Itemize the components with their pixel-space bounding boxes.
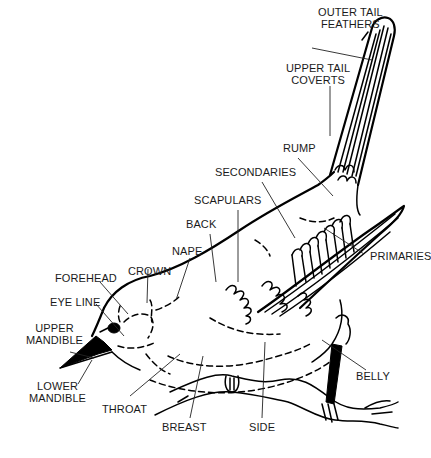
label-line-1: LOWER	[29, 380, 86, 392]
label-upper-tail-coverts: UPPER TAIL COVERTS	[286, 62, 350, 86]
tail	[330, 17, 395, 185]
label-breast: BREAST	[162, 421, 207, 433]
label-eye-line: EYE LINE	[50, 296, 100, 308]
label-secondaries: SECONDARIES	[215, 166, 296, 178]
leader-lines	[70, 48, 372, 418]
label-line-1: OUTER TAIL	[318, 6, 383, 18]
label-nape: NAPE	[172, 245, 202, 257]
label-throat: THROAT	[102, 403, 147, 415]
label-scapulars: SCAPULARS	[194, 194, 262, 206]
label-line-2: MANDIBLE	[26, 334, 83, 346]
label-upper-mandible: UPPER MANDIBLE	[26, 322, 83, 346]
label-side: SIDE	[249, 421, 275, 433]
label-belly: BELLY	[356, 370, 390, 382]
label-line-2: MANDIBLE	[29, 392, 86, 404]
label-line-2: FEATHERS	[318, 18, 383, 30]
label-crown: CROWN	[128, 265, 171, 277]
label-rump: RUMP	[283, 142, 316, 154]
label-line-1: UPPER TAIL	[286, 62, 350, 74]
label-forehead: FOREHEAD	[55, 272, 117, 284]
label-primaries: PRIMARIES	[370, 250, 431, 262]
label-outer-tail-feathers: OUTER TAIL FEATHERS	[318, 6, 383, 30]
label-line-1: UPPER	[26, 322, 83, 334]
label-line-2: COVERTS	[286, 74, 350, 86]
label-lower-mandible: LOWER MANDIBLE	[29, 380, 86, 404]
label-back: BACK	[186, 218, 216, 230]
